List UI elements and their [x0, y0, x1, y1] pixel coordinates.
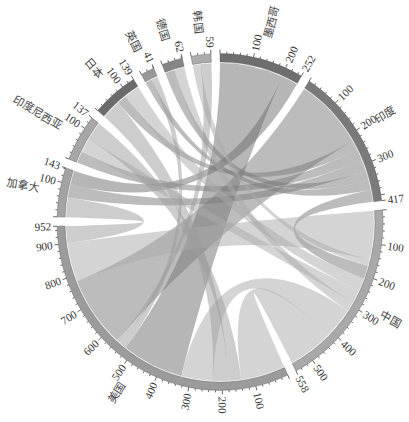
minor-tick	[87, 121, 89, 122]
minor-tick	[378, 265, 380, 266]
major-tick	[313, 360, 315, 363]
sector-label: 英国	[123, 28, 145, 54]
major-tick	[372, 160, 376, 161]
minor-tick	[275, 380, 276, 382]
sector-label: 日本	[82, 55, 107, 81]
tick-label: 100	[335, 82, 355, 103]
end-tick	[382, 200, 386, 201]
minor-tick	[91, 327, 93, 328]
major-tick	[120, 84, 122, 87]
end-tick	[301, 73, 303, 77]
minor-tick	[79, 133, 81, 134]
minor-tick	[318, 356, 319, 358]
tick-label: 800	[43, 274, 63, 291]
tick-label: 600	[81, 337, 101, 358]
tick-label: 900	[35, 239, 53, 253]
minor-tick	[143, 371, 144, 373]
tick-label: 200	[283, 44, 301, 65]
major-tick	[63, 278, 67, 279]
sector-label: 墨西哥	[261, 4, 282, 40]
tick-label: 500	[311, 362, 330, 383]
major-tick	[335, 100, 338, 103]
minor-tick	[374, 167, 376, 168]
minor-tick	[162, 380, 163, 382]
minor-tick	[371, 285, 373, 286]
minor-tick	[329, 348, 330, 350]
major-tick	[254, 53, 255, 57]
tick-label: 417	[387, 192, 405, 206]
minor-tick	[269, 383, 270, 385]
major-tick	[98, 337, 101, 340]
major-tick	[65, 158, 69, 160]
minor-tick	[175, 384, 176, 386]
minor-tick	[369, 154, 371, 155]
tick-label: 143	[42, 155, 62, 172]
minor-tick	[325, 92, 326, 94]
sector-label: 韩国	[190, 10, 206, 34]
minor-tick	[355, 316, 357, 317]
minor-tick	[73, 297, 75, 298]
minor-tick	[298, 72, 299, 74]
minor-tick	[349, 117, 351, 118]
minor-tick	[376, 272, 378, 273]
minor-tick	[106, 99, 107, 100]
major-tick	[139, 71, 141, 75]
minor-tick	[61, 175, 63, 176]
minor-tick	[110, 347, 111, 349]
minor-tick	[149, 374, 150, 376]
major-tick	[155, 377, 157, 381]
minor-tick	[168, 60, 169, 62]
minor-tick	[83, 316, 85, 317]
tick-label: 200	[377, 275, 397, 292]
major-tick	[286, 64, 288, 68]
major-tick	[256, 386, 257, 390]
minor-tick	[137, 368, 138, 370]
major-tick	[373, 279, 377, 280]
minor-tick	[301, 368, 302, 370]
major-tick	[288, 375, 290, 379]
minor-tick	[76, 139, 78, 140]
minor-tick	[120, 356, 121, 358]
minor-tick	[367, 147, 369, 148]
major-tick	[77, 310, 80, 312]
major-tick	[95, 108, 98, 111]
tick-label: 558	[294, 374, 312, 395]
minor-tick	[63, 168, 65, 169]
minor-tick	[344, 112, 346, 113]
tick-label: 200	[216, 396, 228, 414]
minor-tick	[353, 123, 355, 124]
minor-tick	[60, 265, 62, 266]
minor-tick	[262, 385, 263, 387]
end-tick	[296, 371, 298, 375]
tick-label: 500	[109, 361, 128, 382]
sector-label: 中国	[378, 309, 403, 331]
minor-tick	[174, 58, 175, 60]
chord-plot-area: 1002002521002003004171002003004005005581…	[6, 4, 405, 414]
tick-label: 400	[339, 338, 359, 359]
tick-label: 100	[38, 171, 57, 187]
tick-label: 952	[34, 220, 51, 233]
major-tick	[188, 387, 189, 391]
minor-tick	[146, 69, 147, 71]
minor-tick	[87, 321, 89, 322]
minor-tick	[127, 81, 128, 83]
major-tick	[58, 181, 62, 182]
minor-tick	[67, 285, 69, 286]
minor-tick	[101, 104, 102, 105]
minor-tick	[70, 152, 72, 153]
minor-tick	[116, 90, 117, 92]
minor-tick	[376, 174, 378, 175]
major-tick	[81, 126, 84, 128]
minor-tick	[368, 292, 370, 293]
major-tick	[309, 78, 311, 81]
end-tick	[89, 115, 92, 118]
minor-tick	[307, 364, 308, 366]
major-tick	[125, 360, 127, 363]
minor-tick	[340, 107, 341, 108]
tick-label: 300	[375, 147, 395, 165]
minor-tick	[292, 69, 293, 71]
sector-label: 美国	[106, 380, 128, 406]
tick-label: 700	[59, 308, 80, 327]
sector-label: 德国	[153, 17, 173, 43]
minor-tick	[315, 83, 316, 85]
